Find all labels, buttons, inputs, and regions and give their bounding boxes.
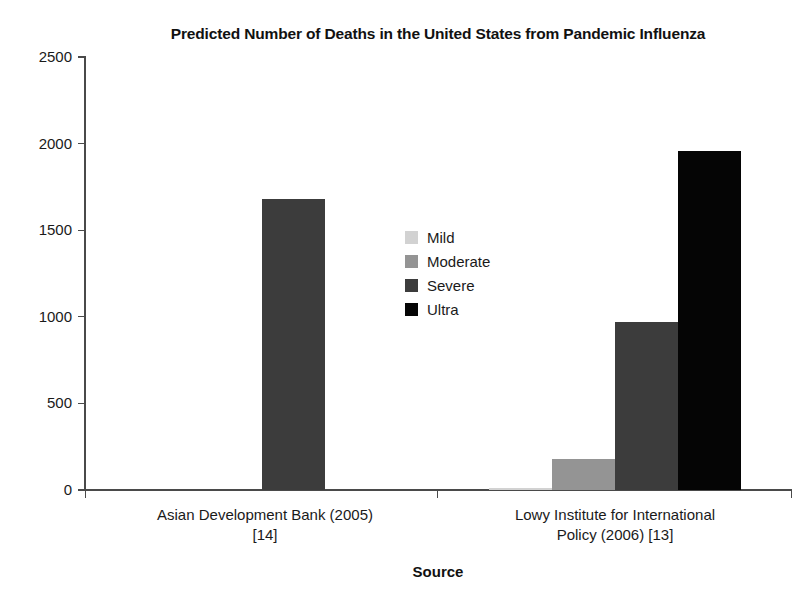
legend-swatch-ultra-icon: [405, 303, 418, 316]
x-axis-title: Source: [85, 563, 791, 580]
legend-item-moderate[interactable]: Moderate: [405, 249, 490, 273]
legend-item-mild[interactable]: Mild: [405, 225, 490, 249]
x-axis-category-label-1-line-0: Lowy Institute for International: [450, 505, 780, 525]
legend-label-mild: Mild: [427, 230, 455, 245]
x-axis-tick-2: [791, 490, 792, 498]
y-axis-tick-label-1500: 1500: [10, 222, 72, 237]
legend-item-severe[interactable]: Severe: [405, 273, 490, 297]
y-axis-tick-labels: 05001000150020002500: [0, 0, 72, 614]
y-axis-tick-label-0: 0: [10, 482, 72, 497]
y-axis-tick-2000: [78, 143, 85, 144]
legend-label-severe: Severe: [427, 278, 475, 293]
x-axis-tick-0: [85, 490, 86, 498]
x-axis-tick-1: [437, 490, 438, 498]
x-axis-category-label-0-line-1: [14]: [100, 525, 430, 545]
x-axis-category-label-1: Lowy Institute for InternationalPolicy (…: [450, 505, 780, 545]
legend-label-moderate: Moderate: [427, 254, 490, 269]
y-axis-tick-2500: [78, 56, 85, 57]
y-axis-tick-label-2500: 2500: [10, 49, 72, 64]
y-axis-tick-0: [78, 489, 85, 490]
bar-severe-cat0: [262, 199, 325, 490]
y-axis-tick-1000: [78, 316, 85, 317]
y-axis-tick-label-2000: 2000: [10, 136, 72, 151]
x-axis-category-label-0-line-0: Asian Development Bank (2005): [100, 505, 430, 525]
legend-swatch-severe-icon: [405, 279, 418, 292]
bar-moderate-cat1: [552, 459, 615, 490]
bar-mild-cat1: [489, 488, 552, 490]
bar-ultra-cat1: [678, 151, 741, 490]
legend-item-ultra[interactable]: Ultra: [405, 297, 490, 321]
chart-title: Predicted Number of Deaths in the United…: [85, 25, 791, 43]
y-axis-tick-label-500: 500: [10, 395, 72, 410]
chart-legend: MildModerateSevereUltra: [405, 225, 490, 321]
x-axis-category-label-1-line-1: Policy (2006) [13]: [450, 525, 780, 545]
legend-label-ultra: Ultra: [427, 302, 459, 317]
chart-figure: Predicted Number of Deaths in the United…: [0, 0, 803, 614]
y-axis-tick-1500: [78, 230, 85, 231]
legend-swatch-mild-icon: [405, 231, 418, 244]
y-axis-tick-label-1000: 1000: [10, 309, 72, 324]
bar-severe-cat1: [615, 322, 678, 490]
y-axis-tick-500: [78, 403, 85, 404]
legend-swatch-moderate-icon: [405, 255, 418, 268]
x-axis-category-label-0: Asian Development Bank (2005)[14]: [100, 505, 430, 545]
